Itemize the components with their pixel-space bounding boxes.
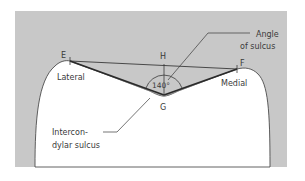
angle-value: 140° [152,81,170,90]
point-label-e: E [61,51,66,60]
point-label-f: F [240,59,245,68]
label-angle-of-sulcus-1: Angle [256,30,279,39]
point-label-h: H [160,52,166,61]
label-angle-of-sulcus-2: of sulcus [240,42,275,51]
label-intercondylar-1: Intercon- [52,128,88,137]
label-intercondylar-2: dylar sulcus [52,141,100,150]
label-lateral: Lateral [57,73,85,82]
sulcus-angle-diagram: E F H G 140° Lateral Medial Angle of sul… [0,0,305,181]
point-label-g: G [160,103,166,112]
label-medial: Medial [221,79,247,88]
